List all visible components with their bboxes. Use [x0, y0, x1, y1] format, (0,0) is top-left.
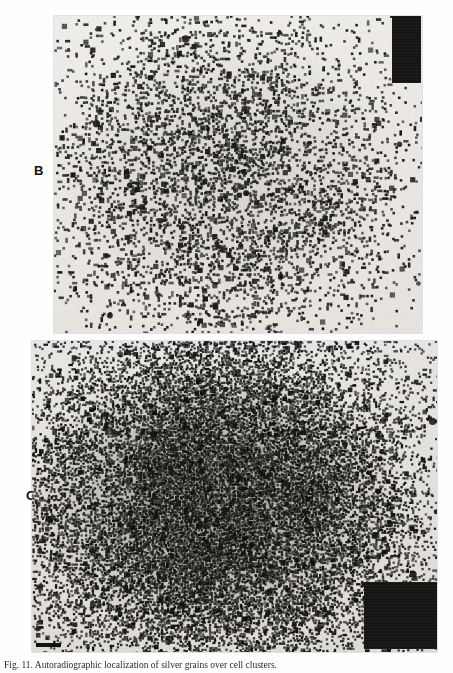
scale-bar [36, 643, 61, 647]
micrograph-panel-c[interactable] [32, 341, 437, 652]
film-base-b [54, 16, 422, 333]
exposure-block-b [392, 16, 421, 83]
figure-caption: Fig. 11. Autoradiographic localization o… [4, 660, 449, 671]
exposure-block-c [364, 582, 437, 649]
panel-label-b: B [34, 164, 43, 177]
figure-root: B C Fig. 11. Autoradiographic localizati… [0, 0, 453, 673]
silver-grain-field-b [54, 16, 422, 333]
micrograph-panel-b[interactable] [54, 16, 422, 333]
